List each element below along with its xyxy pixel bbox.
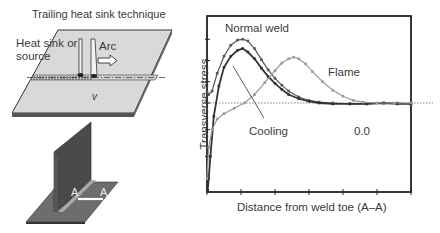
section-label-a-left: A (71, 186, 78, 198)
data-point-cooling (298, 97, 301, 100)
data-point-normal-weld (287, 90, 290, 93)
data-point-normal-weld (281, 84, 284, 87)
data-point-flame (243, 102, 246, 105)
velocity-label: v (92, 91, 97, 102)
data-point-cooling (281, 88, 284, 91)
data-point-normal-weld (230, 44, 233, 47)
series-line-cooling (208, 49, 411, 191)
data-point-cooling (236, 49, 239, 52)
data-point-cooling (260, 67, 263, 70)
data-point-normal-weld (247, 40, 250, 43)
series-line-normal-weld (207, 39, 411, 104)
data-point-flame (352, 99, 355, 102)
data-point-normal-weld (267, 69, 270, 72)
source-label: source (16, 50, 51, 62)
data-point-flame (332, 89, 335, 92)
data-point-normal-weld (253, 47, 256, 50)
data-point-flame (376, 102, 379, 105)
data-point-flame (298, 58, 301, 61)
series-line-flame (207, 57, 411, 179)
data-point-flame (362, 101, 365, 104)
annotation-normal-weld: Normal weld (225, 22, 289, 34)
annotation-flame: Flame (328, 66, 360, 78)
data-point-cooling (230, 55, 233, 58)
data-point-flame (253, 93, 256, 96)
data-point-normal-weld (216, 72, 219, 75)
data-point-flame (321, 80, 324, 83)
data-point-flame (287, 58, 290, 61)
annotation-cooling: Cooling (249, 125, 288, 137)
data-point-flame (264, 81, 267, 84)
data-point-cooling (274, 82, 277, 85)
t-joint-illustration (26, 122, 118, 224)
data-point-cooling (349, 103, 352, 106)
data-point-flame (393, 102, 396, 105)
heat-sink-label: Heat sink or (16, 37, 77, 49)
data-point-cooling (247, 51, 250, 54)
section-label-a-right: A (100, 186, 107, 198)
data-point-flame (311, 70, 314, 73)
data-point-flame (304, 63, 307, 66)
data-point-flame (292, 56, 295, 59)
data-point-normal-weld (236, 39, 239, 42)
data-point-flame (233, 107, 236, 110)
weld-illustrations (0, 0, 440, 233)
data-point-normal-weld (223, 55, 226, 58)
data-point-flame (281, 62, 284, 65)
series-flame (206, 56, 413, 180)
x-axis-label: Distance from weld toe (A–A) (237, 201, 387, 213)
data-point-flame (342, 95, 345, 98)
data-point-flame (211, 128, 214, 131)
data-point-cooling (318, 102, 321, 105)
data-point-flame (274, 69, 277, 72)
data-point-cooling (241, 47, 244, 50)
data-point-cooling (308, 100, 311, 103)
data-point-flame (206, 177, 209, 180)
data-point-normal-weld (241, 38, 244, 41)
arc-label: Arc (99, 40, 116, 52)
heat-sink-nozzle (79, 39, 82, 75)
data-point-normal-weld (274, 77, 277, 80)
data-point-flame (216, 118, 219, 121)
zero-value-label: 0.0 (354, 125, 370, 137)
cooling-annotation-arrow (233, 66, 264, 118)
data-point-cooling (253, 58, 256, 61)
data-point-cooling (213, 115, 216, 118)
data-point-flame (410, 102, 413, 105)
data-point-cooling (223, 66, 226, 69)
stress-chart (205, 16, 433, 195)
data-point-flame (223, 112, 226, 115)
data-point-cooling (218, 85, 221, 88)
data-point-cooling (287, 93, 290, 96)
data-point-normal-weld (260, 58, 263, 61)
data-point-normal-weld (211, 90, 214, 93)
data-point-cooling (206, 189, 209, 192)
y-axis-label: Transverse stress (198, 44, 210, 164)
data-point-cooling (332, 103, 335, 106)
